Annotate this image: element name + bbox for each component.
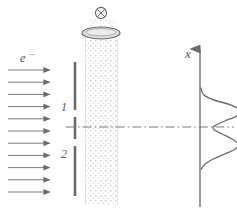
lens-ellipse-inner	[86, 29, 116, 36]
electron-beam-label: e	[20, 51, 26, 65]
slit-label-1: 1	[61, 100, 67, 114]
electron-beam-arrows	[8, 70, 50, 192]
beam-fill	[85, 39, 118, 205]
slit-label-2: 2	[61, 147, 67, 161]
condenser-lens	[82, 27, 120, 39]
stippled-photon-beam	[85, 39, 118, 205]
x-axis-label: x	[184, 46, 191, 61]
diagram-canvas: e – 1 2 x	[0, 0, 237, 213]
electron-charge-superscript: –	[29, 48, 35, 58]
intensity-distribution-curve	[201, 88, 237, 169]
physics-diagram-figure: e – 1 2 x	[0, 0, 237, 213]
